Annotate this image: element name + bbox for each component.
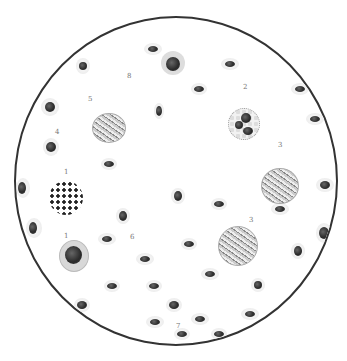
cell <box>101 158 117 170</box>
cell <box>241 308 259 320</box>
label-1a: 1 <box>64 168 68 176</box>
cell <box>211 328 227 340</box>
label-3b: 3 <box>249 216 253 224</box>
cell <box>271 203 289 215</box>
cell-2 <box>228 108 260 140</box>
label-1b: 1 <box>64 232 68 240</box>
cell-3b <box>218 226 258 266</box>
cell <box>221 58 239 70</box>
cell <box>146 316 164 328</box>
cell <box>191 83 207 95</box>
cell <box>136 253 154 265</box>
label-3a: 3 <box>278 141 282 149</box>
cell-3a <box>261 168 299 204</box>
microscope-field <box>14 16 338 346</box>
cell <box>74 298 90 312</box>
cell <box>291 83 309 95</box>
cell <box>26 218 42 238</box>
label-6: 6 <box>130 233 134 241</box>
cell <box>116 208 130 224</box>
label-4: 4 <box>55 128 59 136</box>
cell-5 <box>92 113 126 143</box>
cell <box>43 138 59 156</box>
cell <box>316 178 334 192</box>
cell <box>146 280 162 292</box>
cell <box>251 278 265 292</box>
cell <box>181 238 197 250</box>
cell <box>191 313 209 325</box>
cell <box>201 268 219 280</box>
cell-1b <box>59 240 89 272</box>
cell <box>16 178 30 198</box>
cell <box>76 58 90 74</box>
cell <box>98 233 116 245</box>
cell <box>154 103 164 119</box>
cell <box>161 51 185 75</box>
cell <box>171 188 185 204</box>
cell <box>144 43 162 55</box>
cell <box>291 243 305 259</box>
cell <box>211 198 227 210</box>
cell <box>316 223 332 243</box>
cell <box>166 298 182 312</box>
cell-1a <box>49 181 83 215</box>
cell <box>104 280 120 292</box>
label-2: 2 <box>243 83 247 91</box>
cell <box>306 113 324 125</box>
label-7: 7 <box>176 322 180 330</box>
label-5: 5 <box>88 95 92 103</box>
label-8: 8 <box>127 72 131 80</box>
cell <box>41 98 59 116</box>
